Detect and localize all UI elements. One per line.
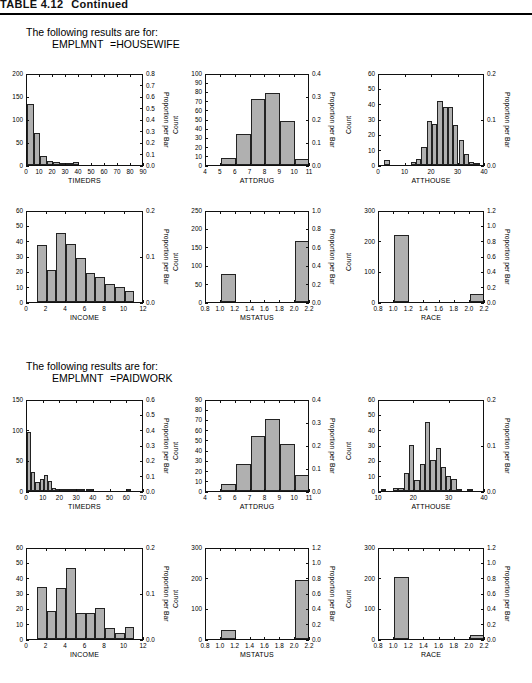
tick-right bbox=[481, 446, 484, 447]
histogram-bar bbox=[105, 628, 115, 639]
tick-right bbox=[481, 120, 484, 121]
caption-line-2: EMPLMNT=HOUSEWIFE bbox=[52, 38, 180, 50]
y2-tick-label: 0.8 bbox=[146, 70, 168, 77]
tick-right bbox=[481, 594, 484, 595]
tick-left bbox=[378, 446, 381, 447]
x-tick-label: 0 bbox=[366, 168, 390, 175]
tick-bottom bbox=[484, 300, 485, 303]
tick-right bbox=[140, 143, 143, 144]
tick-top bbox=[52, 74, 53, 77]
tick-right bbox=[140, 548, 143, 549]
x-tick-label: 10 bbox=[366, 494, 390, 501]
histogram-bar bbox=[265, 93, 280, 165]
tick-left bbox=[205, 461, 208, 462]
tick-bottom bbox=[46, 637, 47, 640]
histogram-bar bbox=[76, 258, 86, 302]
tick-right bbox=[306, 303, 309, 304]
y-tick-label: 10 bbox=[181, 153, 202, 160]
histogram-pw-race: 0.81.01.21.41.61.82.02.201002003000.00.2… bbox=[378, 548, 484, 640]
tick-right bbox=[481, 211, 484, 212]
tick-bottom bbox=[405, 163, 406, 166]
tick-left bbox=[205, 229, 208, 230]
y-tick-label: 0 bbox=[354, 488, 375, 495]
tick-left bbox=[205, 138, 208, 139]
bar-series bbox=[206, 75, 308, 165]
tick-bottom bbox=[454, 637, 455, 640]
tick-right bbox=[481, 624, 484, 625]
plot-frame bbox=[205, 74, 309, 166]
tick-bottom bbox=[264, 300, 265, 303]
caption-value: =HOUSEWIFE bbox=[110, 38, 180, 50]
tick-top bbox=[393, 548, 394, 551]
tick-left bbox=[26, 303, 29, 304]
tick-top bbox=[235, 400, 236, 403]
tick-left bbox=[26, 257, 29, 258]
bar-series bbox=[27, 401, 142, 491]
tick-left bbox=[205, 471, 208, 472]
tick-bottom bbox=[85, 300, 86, 303]
tick-bottom bbox=[76, 489, 77, 492]
y-axis-title: Count bbox=[172, 442, 179, 460]
tick-left bbox=[26, 461, 29, 462]
tick-right bbox=[481, 640, 484, 641]
x-axis-title: RACE bbox=[378, 314, 484, 321]
y2-tick-label: 0.0 bbox=[146, 636, 168, 643]
histogram-pw-income: 02468101201020304050600.00.10.2INCOMECou… bbox=[26, 548, 143, 640]
x-tick-label: 2.2 bbox=[297, 305, 321, 312]
y-tick-label: 40 bbox=[2, 575, 23, 582]
tick-right bbox=[481, 272, 484, 273]
y2-tick-label: 0.0 bbox=[487, 299, 509, 306]
tick-top bbox=[85, 211, 86, 214]
plot-frame bbox=[378, 400, 484, 492]
tick-right bbox=[140, 120, 143, 121]
tick-left bbox=[26, 272, 29, 273]
tick-left bbox=[26, 74, 29, 75]
y2-axis-title: Proportion per Bar bbox=[504, 92, 511, 148]
x-axis-title: RACE bbox=[378, 651, 484, 658]
tick-bottom bbox=[143, 300, 144, 303]
tick-left bbox=[378, 241, 381, 242]
tick-top bbox=[469, 211, 470, 214]
tick-right bbox=[481, 563, 484, 564]
bar-series bbox=[379, 75, 483, 165]
y-tick-label: 300 bbox=[354, 207, 375, 214]
histogram-pw-timedrs: 0102030405060700501001500.00.10.20.30.40… bbox=[26, 400, 143, 492]
tick-top bbox=[220, 74, 221, 77]
tick-left bbox=[26, 241, 29, 242]
tick-right bbox=[306, 578, 309, 579]
y-tick-label: 100 bbox=[181, 70, 202, 77]
bar-series bbox=[27, 75, 142, 165]
tick-bottom bbox=[46, 300, 47, 303]
bar-series bbox=[27, 549, 142, 639]
y2-tick-label: 0.6 bbox=[146, 396, 168, 403]
tick-right bbox=[481, 578, 484, 579]
tick-left bbox=[378, 640, 381, 641]
y-tick-label: 200 bbox=[354, 238, 375, 245]
tick-top bbox=[220, 211, 221, 214]
y-tick-label: 0 bbox=[354, 162, 375, 169]
tick-bottom bbox=[484, 637, 485, 640]
tick-right bbox=[306, 247, 309, 248]
y2-tick-label: 0.4 bbox=[312, 396, 334, 403]
y-tick-label: 40 bbox=[354, 101, 375, 108]
histogram-bar bbox=[125, 291, 135, 302]
x-tick-label: 20 bbox=[419, 168, 443, 175]
y-tick-label: 20 bbox=[181, 144, 202, 151]
caption-variable: EMPLMNT bbox=[52, 38, 110, 50]
tick-left bbox=[205, 451, 208, 452]
y-tick-label: 30 bbox=[181, 134, 202, 141]
tick-right bbox=[306, 594, 309, 595]
tick-right bbox=[481, 400, 484, 401]
tick-top bbox=[423, 548, 424, 551]
tick-top bbox=[294, 74, 295, 77]
y2-axis-title: Proportion per Bar bbox=[163, 566, 170, 622]
x-tick-label: 90 bbox=[131, 168, 155, 175]
tick-left bbox=[378, 430, 381, 431]
tick-left bbox=[205, 92, 208, 93]
section-caption-paidwork: The following results are for:EMPLMNT=PA… bbox=[26, 360, 173, 384]
y-tick-label: 100 bbox=[2, 427, 23, 434]
tick-top bbox=[454, 548, 455, 551]
tick-left bbox=[205, 83, 208, 84]
tick-bottom bbox=[294, 300, 295, 303]
tick-top bbox=[78, 74, 79, 77]
